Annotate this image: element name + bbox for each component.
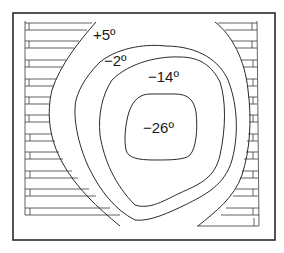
left-hatching [25, 21, 120, 215]
label-plus5: +5º [93, 26, 116, 43]
label-minus26: −26º [143, 119, 174, 136]
label-minus2: −2º [104, 52, 127, 69]
contour-diagram: +5º −2º −14º −26º [0, 0, 284, 253]
label-minus14: −14º [148, 68, 179, 85]
